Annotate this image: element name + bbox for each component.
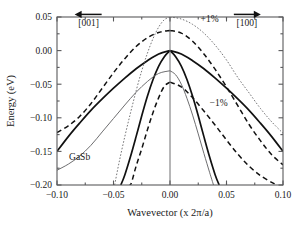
axis-tick-labels: −0.10−0.050.000.050.100.050.00−0.05−0.10… <box>30 12 292 199</box>
y-tick-label: −0.20 <box>30 180 52 190</box>
annotation-label: +1% <box>201 14 219 24</box>
annotation-group: [001][100]+1%−1%GaSb <box>69 11 261 162</box>
x-tick-label: 0.10 <box>275 190 292 200</box>
band-curve-tensile-plus1pct-upper-[100] <box>170 17 283 133</box>
annotation-label: [001] <box>78 18 99 28</box>
band-curve-tensile-plus1pct-upper-[001] <box>115 17 170 185</box>
band-structure-chart: −0.10−0.050.000.050.100.050.00−0.05−0.10… <box>0 0 298 231</box>
band-structure-figure: −0.10−0.050.000.050.100.050.00−0.05−0.10… <box>0 0 298 231</box>
y-tick-label: −0.10 <box>30 113 52 123</box>
y-tick-label: −0.15 <box>30 147 52 157</box>
x-tick-label: 0.00 <box>162 190 179 200</box>
x-tick-label: 0.05 <box>218 190 235 200</box>
band-curve-unstrained-heavy-hole-[100] <box>170 51 219 185</box>
annotation-label: −1% <box>210 98 228 108</box>
annotation-label: GaSb <box>69 152 90 162</box>
band-curve-compressive-minus1pct-lower-[001] <box>130 82 170 185</box>
y-tick-label: 0.05 <box>35 12 52 22</box>
band-curve-tensile-plus1pct-lower-[100] <box>170 71 214 185</box>
annotation-label: [100] <box>237 18 258 28</box>
y-tick-label: 0.00 <box>35 46 52 56</box>
band-curve-unstrained-light-hole-[001] <box>57 51 170 152</box>
x-axis-title: Wavevector (x 2π/a) <box>127 207 213 219</box>
plot-frame <box>57 17 283 185</box>
x-tick-label: −0.10 <box>46 190 68 200</box>
y-tick-label: −0.05 <box>30 80 52 90</box>
x-tick-label: −0.05 <box>103 190 125 200</box>
band-curve-unstrained-heavy-hole-[001] <box>121 51 170 185</box>
y-axis-title: Energy (eV) <box>5 75 17 127</box>
